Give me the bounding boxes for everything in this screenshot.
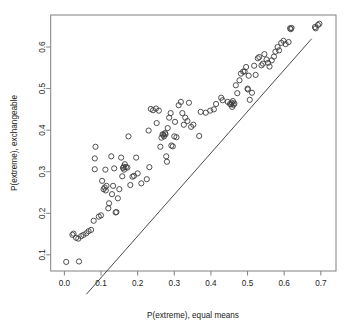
y-axis-ticks <box>46 47 51 255</box>
data-point <box>237 78 242 83</box>
data-point <box>134 155 139 160</box>
data-point <box>109 192 114 197</box>
x-axis-ticks <box>64 271 320 276</box>
data-point <box>103 167 108 172</box>
x-tick-label: 0.1 <box>95 279 107 288</box>
data-point <box>158 144 163 149</box>
x-tick-label: 0.2 <box>132 279 144 288</box>
data-point <box>252 63 257 68</box>
data-point <box>92 156 97 161</box>
y-tick-label: 0.4 <box>38 124 47 136</box>
data-point <box>213 101 218 106</box>
data-point <box>110 183 115 188</box>
x-tick-label: 0.6 <box>278 279 290 288</box>
data-point <box>128 182 133 187</box>
data-point <box>164 154 169 159</box>
data-point <box>168 111 173 116</box>
data-points <box>64 21 322 264</box>
data-point <box>264 57 269 62</box>
data-point <box>120 174 125 179</box>
y-tick-label: 0.3 <box>38 166 47 178</box>
data-point <box>246 73 251 78</box>
y-tick-label: 0.6 <box>38 41 47 53</box>
data-point <box>197 133 202 138</box>
data-point <box>243 64 248 69</box>
data-point <box>154 120 159 125</box>
x-axis-title: P(extreme), equal means <box>147 311 239 320</box>
data-point <box>247 97 252 102</box>
x-tick-label: 0.7 <box>315 279 327 288</box>
data-point <box>235 91 240 96</box>
data-point <box>164 159 169 164</box>
reference-line <box>86 39 311 295</box>
data-point <box>233 83 238 88</box>
data-point <box>186 100 191 105</box>
data-point <box>255 56 260 61</box>
data-point <box>106 201 111 206</box>
data-point <box>317 21 322 26</box>
data-point <box>91 218 96 223</box>
y-tick-label: 0.1 <box>38 249 47 261</box>
y-tick-label: 0.2 <box>38 207 47 219</box>
data-point <box>139 181 144 186</box>
data-point <box>147 165 152 170</box>
x-tick-labels: 0.00.10.20.30.40.50.60.7 <box>59 279 327 288</box>
data-point <box>135 171 140 176</box>
y-tick-label: 0.5 <box>38 82 47 94</box>
reference-line-segment <box>86 39 311 295</box>
data-point <box>115 196 120 201</box>
data-point <box>249 90 254 95</box>
data-point <box>119 155 124 160</box>
chart-canvas: 0.00.10.20.30.40.50.60.7 0.10.20.30.40.5… <box>0 0 358 333</box>
data-point <box>76 259 81 264</box>
plot-frame <box>51 15 336 271</box>
data-point <box>117 187 122 192</box>
data-point <box>126 134 131 139</box>
x-tick-label: 0.5 <box>242 279 254 288</box>
scatter-plot-figure: 0.00.10.20.30.40.50.60.7 0.10.20.30.40.5… <box>0 0 358 333</box>
data-point <box>109 154 114 159</box>
x-tick-label: 0.4 <box>205 279 217 288</box>
y-axis-title: P(extreme), exchangeable <box>10 95 19 191</box>
data-point <box>93 144 98 149</box>
data-point <box>262 52 267 57</box>
data-point <box>92 167 97 172</box>
x-tick-label: 0.0 <box>59 279 71 288</box>
data-point <box>106 206 111 211</box>
data-point <box>172 119 177 124</box>
y-tick-labels: 0.10.20.30.40.50.6 <box>38 41 47 261</box>
data-point <box>198 109 203 114</box>
data-point <box>165 125 170 130</box>
x-tick-label: 0.3 <box>169 279 181 288</box>
data-point <box>257 54 262 59</box>
data-point <box>64 259 69 264</box>
data-point <box>112 166 117 171</box>
data-point <box>100 178 105 183</box>
data-point <box>146 128 151 133</box>
data-point <box>253 72 258 77</box>
data-point <box>144 177 149 182</box>
